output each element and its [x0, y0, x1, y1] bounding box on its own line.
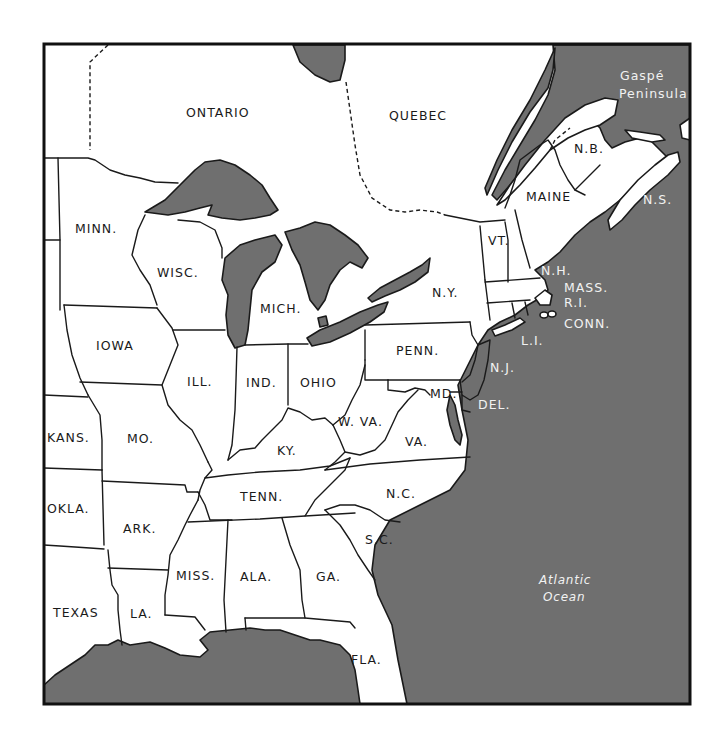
label-vermont: VT. — [488, 233, 510, 248]
label-minnesota: MINN. — [75, 221, 117, 236]
label-missouri: MO. — [127, 431, 154, 446]
label-delaware: DEL. — [478, 397, 510, 412]
label-quebec: QUEBEC — [389, 108, 447, 123]
label-west-virginia: W. VA. — [338, 414, 383, 429]
label-atlantic-line1: Atlantic — [538, 573, 591, 587]
label-maryland: MD. — [430, 386, 457, 401]
marthas-vineyard — [540, 312, 548, 318]
label-nova-scotia: N.S. — [643, 192, 672, 207]
eastern-us-map: ONTARIO QUEBEC N.B. N.S. Gaspé Peninsula… — [0, 0, 726, 743]
label-rhode-island: R.I. — [564, 295, 588, 310]
label-oklahoma: OKLA. — [47, 501, 90, 516]
label-ohio: OHIO — [300, 375, 337, 390]
label-virginia: VA. — [405, 434, 428, 449]
label-long-island: L.I. — [521, 333, 544, 348]
label-south-carolina: S.C. — [365, 532, 394, 547]
label-tennessee: TENN. — [239, 489, 283, 504]
label-iowa: IOWA — [96, 338, 134, 353]
label-florida: FLA. — [351, 652, 382, 667]
label-new-hampshire: N.H. — [541, 263, 571, 278]
label-michigan: MICH. — [260, 301, 301, 316]
label-wisconsin: WISC. — [157, 265, 199, 280]
label-ontario: ONTARIO — [186, 105, 250, 120]
label-georgia: GA. — [316, 569, 341, 584]
label-new-brunswick: N.B. — [574, 141, 604, 156]
label-illinois: ILL. — [187, 374, 213, 389]
label-new-jersey: N.J. — [490, 360, 515, 375]
label-connecticut: CONN. — [564, 316, 610, 331]
label-kansas: KANS. — [47, 430, 90, 445]
label-maine: MAINE — [526, 189, 571, 204]
label-arkansas: ARK. — [123, 521, 156, 536]
label-texas: TEXAS — [52, 605, 99, 620]
label-kentucky: KY. — [277, 443, 297, 458]
label-pennsylvania: PENN. — [396, 343, 439, 358]
label-north-carolina: N.C. — [386, 486, 416, 501]
label-indiana: IND. — [246, 375, 277, 390]
nantucket — [548, 311, 556, 317]
lake-st-clair — [318, 316, 328, 327]
label-massachusetts: MASS. — [564, 280, 608, 295]
label-louisiana: LA. — [130, 606, 153, 621]
label-new-york: N.Y. — [432, 285, 458, 300]
label-alabama: ALA. — [240, 569, 272, 584]
label-atlantic-line2: Ocean — [543, 590, 585, 604]
label-mississippi: MISS. — [176, 568, 215, 583]
label-gaspe-line1: Gaspé — [620, 68, 664, 83]
label-gaspe-line2: Peninsula — [619, 86, 688, 101]
